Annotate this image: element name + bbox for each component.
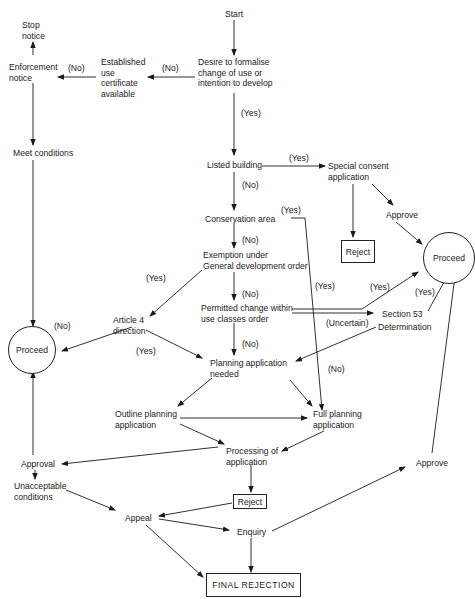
cond-permitted-yes: (Yes) — [370, 282, 390, 292]
node-listed-building: Listed building — [207, 160, 262, 171]
node-stop-notice: Stop notice — [22, 20, 45, 41]
node-processing-of-application: Processing of application — [226, 446, 278, 467]
node-appeal: Appeal — [125, 513, 152, 524]
reject-label: Reject — [346, 247, 370, 257]
node-exemption-gdo: Exemption under General development orde… — [203, 250, 308, 271]
node-full-planning-application: Full planning application — [313, 409, 362, 430]
node-meet-conditions: Meet conditions — [13, 148, 73, 159]
node-determination: Determination — [378, 322, 432, 333]
node-enquiry: Enquiry — [237, 527, 266, 538]
node-reject-special: Reject — [341, 240, 375, 263]
cond-article4-no: (No) — [54, 321, 71, 331]
cond-conservation-full-yes: (Yes) — [315, 281, 335, 291]
node-approval: Approval — [21, 459, 55, 470]
cond-exemption-yes: (Yes) — [146, 273, 166, 283]
node-section-53: Section 53 — [382, 309, 423, 320]
node-proceed-right: Proceed — [423, 232, 475, 284]
proceed-label: Proceed — [16, 345, 48, 355]
node-unacceptable-conditions: Unacceptable conditions — [14, 481, 67, 502]
cond-listed-yes: (Yes) — [289, 153, 309, 163]
node-special-consent-application: Special consent application — [328, 161, 389, 182]
node-outline-planning-application: Outline planning application — [115, 409, 177, 430]
final-rejection-label: FINAL REJECTION — [212, 580, 295, 590]
cond-article4-yes: (Yes) — [136, 346, 156, 356]
node-final-rejection: FINAL REJECTION — [206, 573, 301, 597]
node-start: Start — [225, 9, 243, 20]
proceed-label: Proceed — [433, 253, 465, 263]
cond-conservation-yes: (Yes) — [281, 205, 301, 215]
cond-section53-yes: (Yes) — [415, 287, 435, 297]
node-conservation-area: Conservation area — [205, 214, 275, 225]
node-article-4-direction: Article 4 direction — [113, 315, 145, 336]
cond-conservation-no: (No) — [242, 235, 259, 245]
node-permitted-change: Permitted change within use classes orde… — [201, 303, 293, 324]
node-desire-to-develop: Desire to formalise change of use or int… — [198, 57, 273, 89]
cond-exemption-no: (No) — [242, 289, 259, 299]
cond-desire-no: (No) — [162, 63, 179, 73]
node-proceed-left: Proceed — [8, 326, 56, 374]
node-approve-enquiry: Approve — [416, 458, 448, 469]
node-planning-application-needed: Planning application needed — [210, 358, 287, 379]
node-enforcement-notice: Enforcement notice — [9, 62, 58, 83]
node-approve-special: Approve — [386, 210, 418, 221]
cond-listed-no: (No) — [242, 180, 259, 190]
cond-permitted-no: (No) — [242, 339, 259, 349]
cond-desire-yes: (Yes) — [241, 108, 261, 118]
node-established-use-certificate: Established use certificate available — [101, 57, 145, 99]
cond-established-no: (No) — [68, 63, 85, 73]
reject-label: Reject — [238, 497, 262, 507]
cond-section53-no: (No) — [328, 364, 345, 374]
cond-uncertain: (Uncertain) — [326, 318, 369, 328]
node-reject-processing: Reject — [233, 494, 267, 509]
